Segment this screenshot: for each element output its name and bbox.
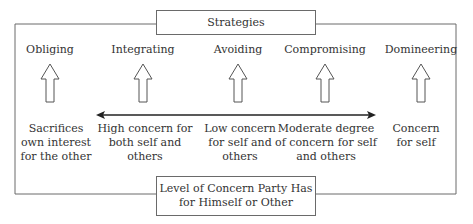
concern-level-line1: Level of Concern Party Has — [159, 182, 312, 196]
desc-line: and others — [275, 150, 377, 164]
up-arrow-icon — [412, 64, 430, 102]
up-arrow-icon — [316, 64, 334, 102]
strategy-desc-compromising: Moderate degree of concern for self and … — [275, 122, 377, 164]
desc-line: High concern for — [97, 122, 192, 136]
desc-line: others — [97, 150, 192, 164]
strategies-title-box: Strategies — [156, 10, 316, 35]
strategy-label-compromising: Compromising — [284, 43, 366, 56]
desc-line: Sacrifices — [21, 122, 92, 136]
strategy-desc-integrating: High concern for both self and others — [97, 122, 192, 164]
strategy-label-domineering: Domineering — [385, 43, 457, 56]
strategies-title: Strategies — [207, 16, 264, 30]
desc-line: own interest — [21, 136, 92, 150]
strategy-label-integrating: Integrating — [111, 43, 174, 56]
desc-line: Concern — [392, 122, 439, 136]
desc-line: for self and — [204, 136, 276, 150]
strategy-label-obliging: Obliging — [26, 43, 74, 56]
desc-line: others — [204, 150, 276, 164]
strategy-desc-avoiding: Low concern for self and others — [204, 122, 276, 164]
desc-line: both self and — [97, 136, 192, 150]
desc-line: Low concern — [204, 122, 276, 136]
up-arrow-icon — [134, 64, 152, 102]
desc-line: of concern for self — [275, 136, 377, 150]
up-arrow-icon — [41, 64, 59, 102]
desc-line: Moderate degree — [275, 122, 377, 136]
desc-line: for self — [392, 136, 439, 150]
concern-level-box: Level of Concern Party Has for Himself o… — [156, 176, 316, 216]
strategy-desc-domineering: Concern for self — [392, 122, 439, 150]
desc-line: for the other — [21, 150, 92, 164]
strategy-label-avoiding: Avoiding — [214, 43, 263, 56]
double-arrow-icon — [96, 111, 376, 119]
strategy-desc-obliging: Sacrifices own interest for the other — [21, 122, 92, 164]
concern-level-line2: for Himself or Other — [179, 196, 293, 210]
up-arrow-icon — [229, 64, 247, 102]
